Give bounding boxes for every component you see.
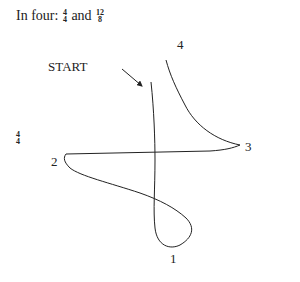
conducting-pattern <box>0 0 300 282</box>
beat-2-label: 2 <box>51 154 58 170</box>
beat2-to-3-stroke <box>66 145 240 154</box>
start-arrow <box>122 69 142 86</box>
beat1-stroke <box>64 82 191 247</box>
start-label: START <box>48 59 87 75</box>
beat3-to-4-stroke <box>166 60 240 145</box>
beat-3-label: 3 <box>245 139 252 155</box>
beat-1-label: 1 <box>170 251 177 267</box>
beat-4-label: 4 <box>177 37 184 53</box>
